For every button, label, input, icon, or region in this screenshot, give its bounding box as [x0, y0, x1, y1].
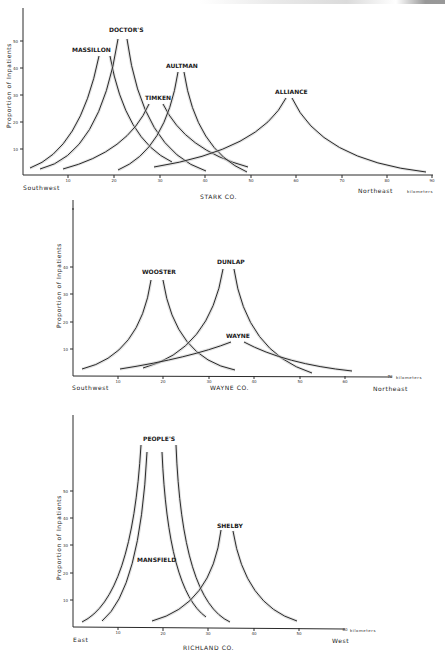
curve-peoples — [82, 445, 230, 622]
svg-text:20: 20 — [63, 320, 69, 325]
x-axis — [73, 376, 392, 377]
svg-text:40: 40 — [251, 379, 257, 384]
direction-right-label: Northeast — [358, 187, 393, 194]
curve-wooster — [82, 280, 235, 370]
direction-right-label: West — [332, 637, 349, 644]
series-label-mansfield: MANSFIELD — [137, 556, 176, 563]
svg-text:20: 20 — [160, 379, 166, 384]
series-label-timken: TIMKEN — [145, 94, 171, 101]
svg-text:60: 60 — [342, 379, 348, 384]
svg-text:10: 10 — [63, 347, 69, 352]
figure-gravity-curves: 10 20 30 40 50 10 20 30 40 50 60 70 80 9… — [0, 0, 445, 651]
direction-left-label: East — [73, 636, 88, 643]
x-ticks: 10 20 30 40 50 60 70 — [115, 374, 393, 384]
curve-alliance — [154, 98, 426, 172]
y-axis-title: Proportion of Inpatients — [55, 495, 63, 580]
y-tick-label: 40 — [13, 66, 19, 71]
series-label-shelby: SHELBY — [217, 522, 244, 529]
y-ticks: 10 20 30 40 — [63, 265, 73, 352]
y-tick-label: 10 — [13, 147, 19, 152]
svg-text:20: 20 — [111, 178, 117, 183]
x-axis — [73, 627, 345, 629]
svg-text:20: 20 — [160, 631, 166, 636]
series-label-doctors: DOCTOR'S — [109, 26, 143, 33]
y-ticks: 10 20 30 40 50 — [63, 489, 73, 603]
svg-text:90: 90 — [429, 178, 435, 183]
series-label-massillon: MASSILLON — [72, 46, 111, 53]
svg-text:10: 10 — [63, 598, 69, 603]
y-axis-title: Proportion of Inpatients — [5, 43, 13, 128]
units-label: kilometers — [396, 375, 422, 380]
svg-text:40: 40 — [63, 516, 69, 521]
units-label: kilometers — [350, 628, 376, 633]
svg-text:60: 60 — [342, 627, 348, 632]
series-label-wooster: WOOSTER — [142, 268, 176, 275]
svg-text:10: 10 — [115, 379, 121, 384]
county-title: STARK CO. — [200, 193, 237, 200]
chart-richland-county: 10 20 30 40 50 10 20 30 40 50 60 Proport… — [55, 415, 376, 651]
units-label: kilometers — [407, 189, 433, 194]
svg-text:50: 50 — [63, 489, 69, 494]
svg-text:70: 70 — [339, 178, 345, 183]
y-tick-label: 50 — [13, 39, 19, 44]
svg-text:30: 30 — [63, 292, 69, 297]
svg-text:40: 40 — [63, 265, 69, 270]
chart-stark-county: 10 20 30 40 50 10 20 30 40 50 60 70 80 9… — [5, 8, 435, 200]
y-ticks: 10 20 30 40 50 — [13, 39, 23, 152]
curve-shelby — [152, 530, 297, 621]
svg-text:40: 40 — [251, 631, 257, 636]
series-label-wayne: WAYNE — [226, 332, 250, 339]
y-axis-title: Proportion of Inpatients — [55, 243, 63, 328]
direction-left-label: Southwest — [23, 184, 60, 191]
county-title: RICHLAND CO. — [183, 644, 234, 651]
series-label-peoples: PEOPLE'S — [143, 435, 175, 442]
direction-right-label: Northeast — [373, 385, 408, 392]
svg-text:40: 40 — [202, 178, 208, 183]
series-label-aultman: AULTMAN — [166, 62, 198, 69]
svg-text:20: 20 — [63, 571, 69, 576]
y-tick-label: 20 — [13, 120, 19, 125]
chart-wayne-county: 10 20 30 40 10 20 30 40 50 60 70 Proport… — [55, 208, 422, 392]
svg-text:10: 10 — [65, 178, 71, 183]
x-ticks: 10 20 30 40 50 60 70 80 90 — [65, 175, 435, 183]
svg-text:50: 50 — [248, 178, 254, 183]
svg-text:80: 80 — [384, 178, 390, 183]
svg-text:50: 50 — [296, 631, 302, 636]
svg-text:30: 30 — [63, 543, 69, 548]
series-label-alliance: ALLIANCE — [275, 88, 308, 95]
y-tick-label: 30 — [13, 93, 19, 98]
series-label-dunlap: DUNLAP — [217, 258, 245, 265]
curve-mansfield — [102, 452, 206, 621]
county-title: WAYNE CO. — [210, 384, 249, 391]
svg-text:30: 30 — [157, 178, 163, 183]
svg-text:70: 70 — [387, 374, 393, 379]
curve-massillon — [30, 56, 172, 168]
svg-text:30: 30 — [205, 631, 211, 636]
direction-left-label: Southwest — [72, 384, 109, 391]
svg-text:10: 10 — [115, 630, 121, 635]
curve-wayne — [120, 342, 352, 371]
svg-text:60: 60 — [293, 178, 299, 183]
svg-text:50: 50 — [297, 379, 303, 384]
